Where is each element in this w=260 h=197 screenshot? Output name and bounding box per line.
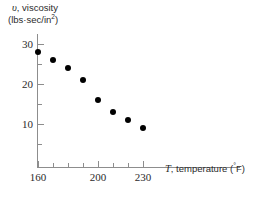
data-point [125, 117, 131, 123]
x-axis-title-text: , temperature ( [171, 163, 233, 174]
y-axis-tick-major [38, 44, 44, 45]
x-axis-tick-major [98, 161, 99, 167]
y-axis-units-prefix: (lbs·sec/in [8, 14, 51, 25]
x-axis-tick-major [143, 161, 144, 167]
data-point [110, 109, 116, 115]
data-point [35, 49, 41, 55]
y-axis-tick-minor [38, 64, 42, 65]
data-point [140, 125, 146, 131]
y-axis-tick-label: 10 [11, 119, 33, 130]
x-axis-tick-label: 230 [128, 172, 158, 183]
x-axis-tick-minor [113, 163, 114, 167]
y-axis-units-suffix: ) [55, 14, 58, 25]
x-axis-tick-minor [68, 163, 69, 167]
y-axis-tick-minor [38, 104, 42, 105]
x-axis-tick-major [38, 161, 39, 167]
y-axis-title-line1-text: , viscosity [17, 2, 58, 13]
y-axis-tick-major [38, 124, 44, 125]
y-axis-tick-label: 20 [11, 79, 33, 90]
x-axis-tick-minor [83, 163, 84, 167]
data-point [65, 65, 71, 71]
x-axis-tick-label: 200 [83, 172, 113, 183]
y-axis-tick-minor [38, 144, 42, 145]
y-axis-tick-major [38, 84, 44, 85]
data-point [80, 77, 86, 83]
viscosity-temperature-scatter-chart: υ, viscosity (lbs·sec/in2) T, temperatur… [0, 0, 260, 197]
x-axis-title-tail: F) [236, 163, 245, 174]
x-axis-tick-minor [128, 163, 129, 167]
x-axis-tick-label: 160 [23, 172, 53, 183]
x-axis-tick-minor [53, 163, 54, 167]
x-axis-title: T, temperature (°F) [165, 163, 245, 174]
data-point [95, 97, 101, 103]
data-point [50, 57, 56, 63]
y-axis-title-line2: (lbs·sec/in2) [8, 14, 58, 26]
y-axis-title: υ, viscosity (lbs·sec/in2) [8, 2, 58, 26]
y-axis-tick-label: 30 [11, 39, 33, 50]
